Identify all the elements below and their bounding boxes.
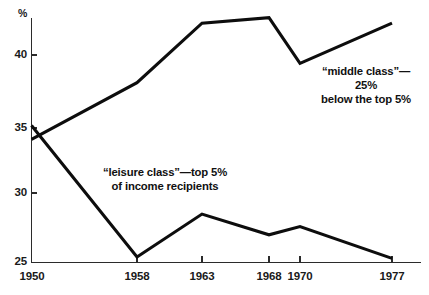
- y-tick-label-25: 25: [0, 256, 27, 268]
- x-tick-label-1970: 1970: [275, 271, 325, 283]
- income-share-line-chart: % 40 35 30 25 1950 1958 1963 1968 1970 1…: [0, 0, 429, 295]
- x-tick-label-1950: 1950: [7, 271, 57, 283]
- y-tick-label-35: 35: [0, 122, 27, 134]
- x-tick-label-1977: 1977: [367, 271, 417, 283]
- annotation-leisure-class: “leisure class”—top 5% of income recipie…: [98, 165, 232, 193]
- y-tick-label-40: 40: [0, 49, 27, 61]
- x-tick-label-1963: 1963: [177, 271, 227, 283]
- y-axis-unit-label: %: [18, 8, 27, 19]
- y-tick-label-30: 30: [0, 187, 27, 199]
- x-tick-label-1958: 1958: [112, 271, 162, 283]
- annotation-middle-class: “middle class”—25% below the top 5%: [312, 64, 420, 106]
- chart-plot-area: [0, 0, 429, 295]
